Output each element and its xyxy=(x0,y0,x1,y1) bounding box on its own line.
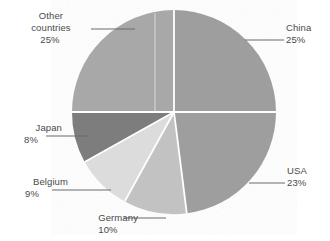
pie-label-germany-value: 10% xyxy=(76,224,138,236)
pie-label-japan: Japan 8% xyxy=(6,122,62,146)
pie-label-other-countries-value: 25% xyxy=(12,34,90,46)
pie-chart: Other countries 25% China 25% USA 23% Ja… xyxy=(0,0,330,241)
pie-label-japan-name: Japan xyxy=(6,122,62,134)
pie-label-other-countries: Other countries 25% xyxy=(12,10,90,46)
pie-label-belgium-name: Belgium xyxy=(2,176,68,188)
pie-label-germany: Germany 10% xyxy=(76,212,138,236)
pie-label-japan-value: 8% xyxy=(6,134,62,146)
pie-label-belgium-value: 9% xyxy=(2,188,68,200)
pie-label-china-name: China xyxy=(286,22,330,34)
pie-label-china-value: 25% xyxy=(286,34,330,46)
pie-label-usa-value: 23% xyxy=(287,177,329,189)
pie-label-other-countries-name-line1: Other xyxy=(12,10,90,22)
pie-label-germany-name: Germany xyxy=(76,212,138,224)
pie-label-china: China 25% xyxy=(286,22,330,46)
pie-slice-usa xyxy=(174,112,276,213)
pie-slice-china xyxy=(174,10,276,112)
pie-label-usa-name: USA xyxy=(287,165,329,177)
pie-label-other-countries-name-line2: countries xyxy=(12,22,90,34)
pie-label-belgium: Belgium 9% xyxy=(2,176,68,200)
pie-label-usa: USA 23% xyxy=(287,165,329,189)
